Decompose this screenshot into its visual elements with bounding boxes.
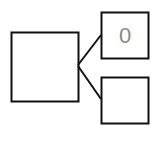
child-box-bottom bbox=[102, 78, 149, 124]
child-box-top-label: 0 bbox=[101, 25, 149, 47]
connector-top bbox=[78, 35, 101, 65]
tree-diagram bbox=[0, 0, 166, 144]
root-box bbox=[12, 33, 79, 102]
connector-bottom bbox=[78, 66, 101, 99]
